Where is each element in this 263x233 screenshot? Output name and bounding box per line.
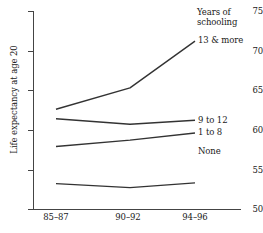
legend-title-line-2: schooling (197, 17, 263, 27)
series-line-13-and-more (56, 41, 195, 109)
legend-title-line-1: Years of (197, 7, 263, 17)
line-chart: 75 70 65 60 55 50 Life expectancy at age… (0, 0, 263, 233)
series-label-1-to-8: 1 to 8 (198, 128, 222, 137)
series-line-none (56, 183, 195, 188)
series-label-none: None (198, 147, 221, 156)
series-line-1-to-8 (56, 133, 195, 146)
series-label-13-and-more: 13 & more (198, 36, 243, 45)
legend-title: Years of schooling (197, 7, 263, 27)
series-label-9-to-12: 9 to 12 (198, 116, 227, 125)
series-line-9-to-12 (56, 119, 195, 125)
